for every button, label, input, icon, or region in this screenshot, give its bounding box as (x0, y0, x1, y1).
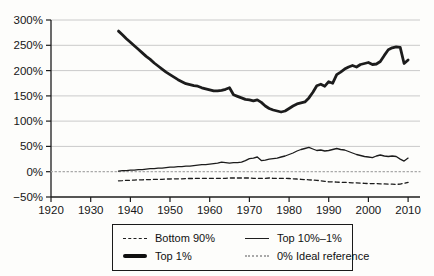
bottom-90pct-line (119, 178, 409, 184)
y-tick-label: 50% (20, 140, 43, 152)
x-tick-label: 2010 (395, 204, 421, 216)
dotted-line-swatch-icon (245, 255, 269, 257)
x-tick-label: 1960 (197, 204, 223, 216)
legend-item-top-1: Top 1% (123, 250, 235, 262)
top-10-1pct-line (119, 147, 409, 171)
x-tick-label: 1940 (118, 204, 144, 216)
legend-label-ideal-reference: 0% Ideal reference (277, 250, 369, 262)
y-tick-label: 300% (14, 14, 43, 26)
y-tick-label: 200% (14, 65, 43, 77)
x-tick-label: 1930 (78, 204, 104, 216)
legend-label-top-10-1: Top 10%–1% (277, 232, 342, 244)
x-tick-label: 2000 (356, 204, 382, 216)
y-tick-label: 0% (26, 166, 43, 178)
chart-page: 300%250%200%150%100%50%0%−50%19201930194… (0, 0, 434, 276)
x-tick-label: 1920 (38, 204, 64, 216)
legend-item-bottom-90: Bottom 90% (123, 232, 235, 244)
legend-item-top-10-1: Top 10%–1% (245, 232, 369, 244)
chart-legend: Bottom 90% Top 10%–1% Top 1% 0% Ideal re… (112, 224, 353, 271)
y-tick-label: −50% (13, 191, 43, 203)
x-tick-label: 1970 (237, 204, 263, 216)
inequality-line-chart: 300%250%200%150%100%50%0%−50%19201930194… (0, 0, 434, 218)
y-tick-label: 100% (14, 115, 43, 127)
legend-label-bottom-90: Bottom 90% (155, 232, 215, 244)
thick-line-swatch-icon (123, 254, 147, 257)
y-tick-label: 250% (14, 39, 43, 51)
x-tick-label: 1950 (157, 204, 183, 216)
dashed-line-swatch-icon (123, 238, 147, 239)
legend-item-ideal-reference: 0% Ideal reference (245, 250, 369, 262)
legend-label-top-1: Top 1% (155, 250, 192, 262)
thin-line-swatch-icon (245, 238, 269, 239)
top-1pct-line (119, 31, 409, 112)
x-tick-label: 1990 (316, 204, 342, 216)
y-tick-label: 150% (14, 90, 43, 102)
x-tick-label: 1980 (276, 204, 302, 216)
